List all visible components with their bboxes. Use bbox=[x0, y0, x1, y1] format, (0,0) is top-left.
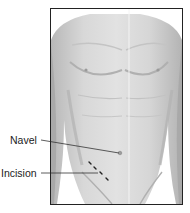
torso-illustration bbox=[0, 0, 190, 213]
incision-label: Incision bbox=[1, 168, 37, 179]
navel-label: Navel bbox=[10, 135, 37, 146]
torso-body bbox=[51, 9, 182, 204]
